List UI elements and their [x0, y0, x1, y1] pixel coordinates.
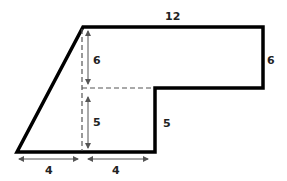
label-right-height: 6	[267, 54, 275, 67]
label-bottom-left-width: 4	[45, 164, 53, 177]
shape-outline	[17, 27, 263, 152]
composite-shape-diagram: 12 6 6 5 5 4 4	[0, 0, 287, 181]
label-inner-upper-height: 6	[93, 54, 101, 67]
label-inner-lower-height: 5	[93, 116, 101, 129]
label-bottom-right-width: 4	[112, 164, 120, 177]
label-step-height: 5	[163, 117, 171, 130]
label-top-length: 12	[165, 10, 180, 23]
